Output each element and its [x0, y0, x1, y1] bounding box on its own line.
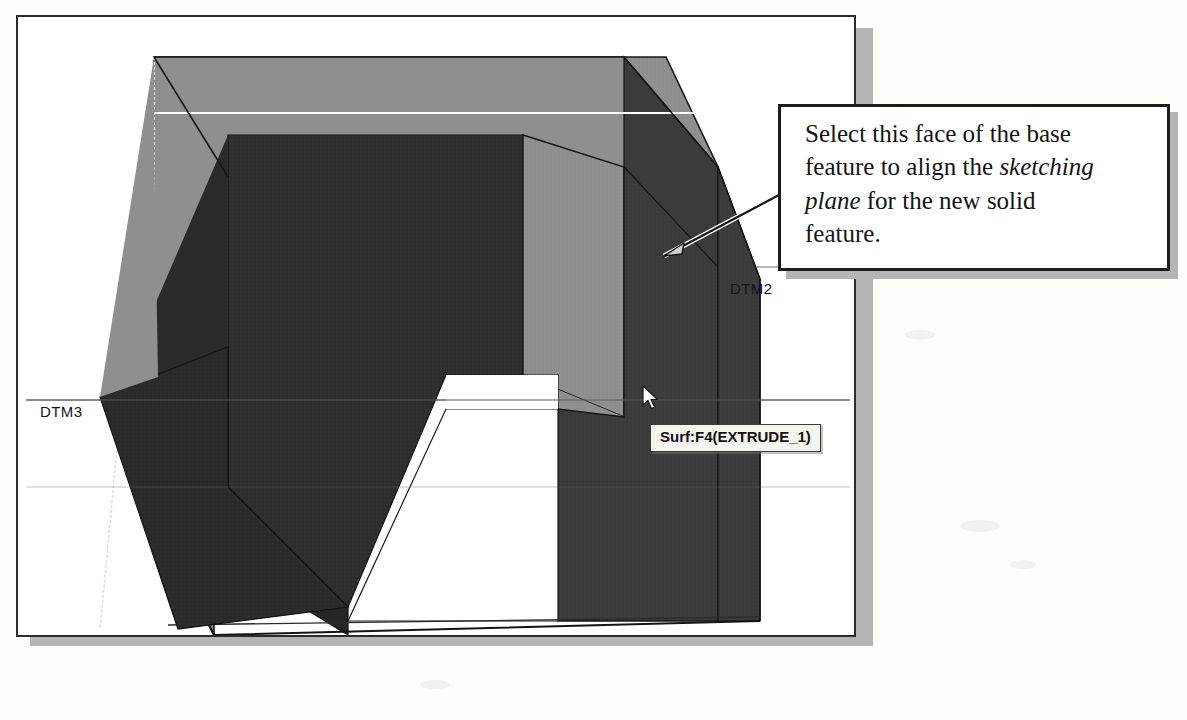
paper-speckle [960, 520, 1000, 532]
cad-3d-viewport[interactable]: DTM3 DTM2 DTM1 Surf:F4(EXTRUDE_1) [16, 15, 856, 637]
datum-plane-label-dtm3[interactable]: DTM3 [40, 404, 82, 419]
model-channel-top-step [446, 375, 558, 409]
callout-line-text: feature. [805, 220, 881, 247]
page-background: DTM3 DTM2 DTM1 Surf:F4(EXTRUDE_1) Select… [0, 0, 1187, 720]
callout-line: feature. [805, 217, 1135, 250]
callout-emphasis: sketching [999, 153, 1093, 180]
callout-line-text: Select this face of the base [805, 120, 1071, 147]
model-render-canvas[interactable] [18, 17, 854, 635]
callout-emphasis: plane [805, 187, 861, 214]
datum-plane-label-dtm2[interactable]: DTM2 [730, 281, 772, 296]
model-face-far-left-light [100, 57, 158, 397]
callout-line: Select this face of the base [805, 117, 1135, 150]
callout-line: feature to align the sketching [805, 150, 1135, 183]
callout-text: Select this face of the base feature to … [805, 117, 1135, 250]
callout-line-text: feature to align the [805, 153, 999, 180]
callout-line-text: for the new solid [861, 187, 1036, 214]
instruction-callout: Select this face of the base feature to … [778, 104, 1170, 271]
paper-speckle [420, 680, 450, 689]
surface-selection-tooltip: Surf:F4(EXTRUDE_1) [650, 424, 821, 452]
paper-speckle [905, 330, 935, 340]
callout-line: plane for the new solid [805, 184, 1135, 217]
paper-speckle [1010, 560, 1036, 569]
